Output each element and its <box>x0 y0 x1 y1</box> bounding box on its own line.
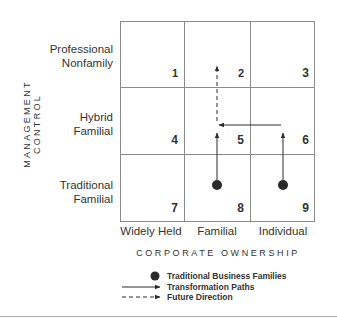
row-label-professional: Professional Nonfamily <box>50 42 113 70</box>
cell-number-9: 9 <box>289 201 309 215</box>
grid <box>121 22 315 222</box>
column-label-individual: Individual <box>250 225 316 237</box>
cell-number-2: 2 <box>224 67 244 79</box>
cell-number-5: 5 <box>224 133 244 147</box>
row-label-line: Traditional <box>60 178 113 192</box>
cell-number-3: 3 <box>289 66 309 80</box>
cell-number-7: 7 <box>158 201 178 215</box>
row-label-line: Professional <box>50 42 113 56</box>
row-label-line: Hybrid <box>73 110 113 124</box>
legend-label-future: Future Direction <box>167 292 233 302</box>
legend-label-transformation: Transformation Paths <box>167 282 254 292</box>
row-label-traditional: Traditional Familial <box>60 178 113 206</box>
row-label-line: Familial <box>73 124 113 138</box>
cell-number-1: 1 <box>158 67 178 79</box>
cell-number-8: 8 <box>224 201 244 215</box>
y-axis-title: MANAGEMENT CONTROL <box>22 54 42 194</box>
cell-number-6: 6 <box>289 133 309 147</box>
column-label-familial: Familial <box>184 225 250 237</box>
x-axis-title: CORPORATE OWNERSHIP <box>120 248 316 258</box>
family-marker-8 <box>212 180 222 190</box>
row-label-line: Familial <box>60 192 113 206</box>
row-label-line: Nonfamily <box>50 56 113 70</box>
legend-label-families: Traditional Business Families <box>167 271 287 281</box>
row-label-hybrid: Hybrid Familial <box>73 110 113 138</box>
bottom-divider <box>0 316 337 317</box>
cell-number-4: 4 <box>158 133 178 147</box>
column-label-widely-held: Widely Held <box>114 225 188 237</box>
legend-dot-icon <box>151 272 160 281</box>
family-marker-9 <box>278 180 288 190</box>
